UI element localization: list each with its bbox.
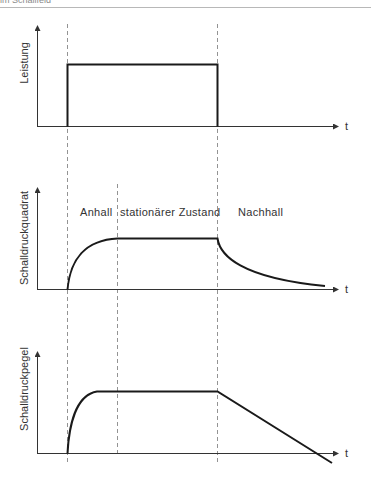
pressure-squared-curve (68, 239, 326, 290)
pressure-level-curve (68, 392, 333, 464)
y-axis-label: Schalldruckpegel (18, 347, 30, 431)
region-label-stationary: stationärer Zustand (120, 206, 220, 218)
x-axis-label: t (345, 120, 348, 132)
x-axis-label: t (345, 447, 348, 459)
x-axis-label: t (345, 283, 348, 295)
y-axis-label: Schalldruckquadrat (18, 191, 30, 285)
power-curve (68, 65, 218, 127)
y-axis-label: Leistung (18, 42, 30, 84)
region-label-nachhall: Nachhall (238, 206, 283, 218)
region-label-anhall: Anhall (80, 206, 112, 218)
sound-field-diagram: t Leistung t Schalldruckquadrat Anhall s… (0, 0, 371, 477)
time-guides (68, 24, 218, 462)
